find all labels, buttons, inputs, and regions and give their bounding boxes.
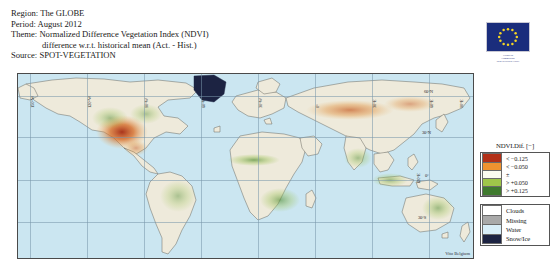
header-row-period: Period: August 2012 [11,19,209,30]
theme-value-continued: difference w.r.t. historical mean (Act. … [11,40,209,51]
graticule-label: 150°W [30,96,35,108]
legend-label: < −0.050 [506,163,528,170]
legend-label: Missing [506,217,527,224]
header-row-source: Source: SPOT-VEGETATION [11,50,209,61]
source-label: Source: [11,50,37,61]
map-header: Region: The GLOBE Period: August 2012 Th… [11,8,209,61]
legend-label: Clouds [506,207,524,214]
graticule-label: 60°N [424,89,433,94]
header-row-region: Region: The GLOBE [11,8,209,19]
graticule-label: 60°W [201,98,206,108]
legend-item[interactable]: Snow/Ice [482,234,548,243]
period-label: Period: [11,19,36,30]
map-credit: Vito Belgium [445,251,470,256]
world-map[interactable]: 150°W 120°W 90°W 60°W 30°W 0° 30°E 60°E … [17,73,474,259]
graticule-label: 0° [315,104,320,108]
legend-label: < −0.125 [506,155,528,162]
graticule-label: 0° [425,173,429,178]
source-value: SPOT-VEGETATION [39,50,115,60]
legend-label: > +0.125 [506,187,528,194]
header-row-theme: Theme: Normalized Difference Vegetation … [11,29,209,40]
graticule-label: 60°E [429,100,434,108]
region-label: Region: [11,8,38,19]
legend-label: ± [506,171,509,178]
european-commission-emblem: European Commission Joint Research Centr… [486,22,530,64]
legend-title: NDVI.Dif. [−] [480,142,550,149]
graticule-label: 30°S [418,215,426,220]
map-legend: NDVI.Dif. [−] < −0.125 < −0.050 ± > +0.0… [480,142,550,246]
emblem-caption: European Commission Joint Research Centr… [486,54,530,64]
graticule-label: 30°N [422,130,431,135]
legend-label: > +0.050 [506,179,528,186]
graticule-label: 90°E [459,100,464,108]
legend-label: Snow/Ice [506,235,530,242]
header-row-theme-cont: difference w.r.t. historical mean (Act. … [11,40,209,51]
period-value: August 2012 [38,19,82,29]
graticule-label: 30°W [258,98,263,108]
emblem-caption-line3: Joint Research Centre [486,60,530,63]
graticule-label: 90°W [144,98,149,108]
european-union-flag-icon [486,22,530,52]
eu-stars-icon [487,23,529,51]
legend-label: Water [506,226,521,233]
region-value: The GLOBE [40,8,84,18]
legend-item[interactable]: > +0.125 [482,187,548,195]
legend-classes: < −0.125 < −0.050 ± > +0.050 > +0.125 [480,152,550,197]
legend-swatch-icon [482,234,502,245]
graticule-label: 120°W [87,96,92,108]
legend-swatch-icon [482,186,502,195]
legend-surface-types: Clouds Missing Water Snow/Ice [480,204,550,246]
theme-label: Theme: [11,29,37,40]
ndvi-anomaly-map-page: Region: The GLOBE Period: August 2012 Th… [0,0,553,272]
theme-value: Normalized Difference Vegetation Index (… [39,29,208,39]
graticule-label: 120°E [416,173,421,184]
graticule-label: 30°E [372,100,377,108]
